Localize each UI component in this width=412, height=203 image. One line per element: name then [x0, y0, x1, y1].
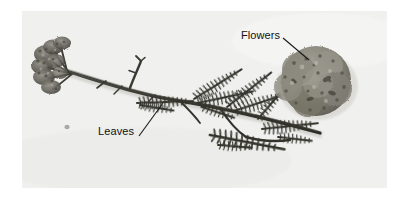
callout-label-leaves: Leaves: [98, 125, 134, 138]
specimen-photograph: [22, 11, 387, 188]
debris-speck: [64, 125, 69, 129]
callout-label-flowers: Flowers: [241, 29, 280, 42]
figure-root: Flowers Leaves: [0, 0, 412, 203]
specimen-illustration: [22, 11, 387, 188]
